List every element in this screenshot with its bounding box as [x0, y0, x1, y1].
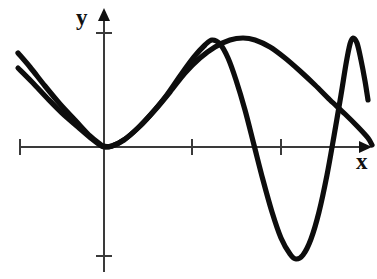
y-axis-label: y — [76, 6, 88, 29]
x-axis-label: x — [356, 150, 368, 173]
graph-figure: y x — [0, 0, 377, 279]
y-axis-arrow-icon — [98, 8, 110, 21]
curves-group — [18, 38, 372, 259]
plot-area — [0, 0, 377, 279]
axes-group — [20, 8, 372, 272]
